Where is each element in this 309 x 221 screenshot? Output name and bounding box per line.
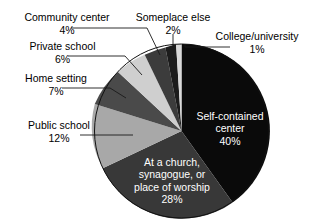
- label-community-center: Community center 4%: [8, 11, 126, 36]
- label-church-line3: place of worship: [110, 181, 234, 193]
- label-church-line1: At a church,: [110, 156, 234, 168]
- label-private-school-pct: 6%: [9, 53, 116, 66]
- label-public-school: Public school 12%: [5, 119, 113, 144]
- label-self-contained-center: Self-contained center 40%: [182, 110, 278, 147]
- label-self-contained-center-line1: Self-contained: [182, 110, 278, 122]
- label-public-school-name: Public school: [5, 119, 113, 132]
- label-self-contained-center-pct: 40%: [182, 135, 278, 147]
- label-church: At a church, synagogue, or place of wors…: [110, 156, 234, 205]
- label-college-university-name: College/university: [207, 30, 307, 43]
- label-church-pct: 28%: [110, 193, 234, 205]
- label-community-center-pct: 4%: [8, 24, 126, 37]
- label-self-contained-center-line2: center: [182, 122, 278, 134]
- label-college-university-pct: 1%: [207, 43, 307, 56]
- label-private-school: Private school 6%: [9, 40, 116, 65]
- label-college-university: College/university 1%: [207, 30, 307, 55]
- label-community-center-name: Community center: [8, 11, 126, 24]
- label-home-setting-name: Home setting: [4, 72, 108, 85]
- pie-chart-figure: Community center 4% Someplace else 2% Co…: [0, 0, 309, 221]
- label-public-school-pct: 12%: [5, 132, 113, 145]
- label-home-setting-pct: 7%: [4, 85, 108, 98]
- label-private-school-name: Private school: [9, 40, 116, 53]
- label-home-setting: Home setting 7%: [4, 72, 108, 97]
- label-church-line2: synagogue, or: [110, 168, 234, 180]
- label-someplace-else-name: Someplace else: [123, 11, 223, 24]
